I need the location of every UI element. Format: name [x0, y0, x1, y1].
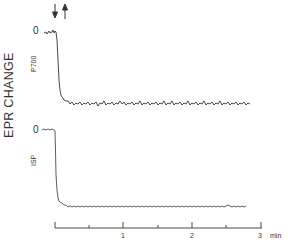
p700-trace: [44, 30, 250, 106]
x-unit-label: min: [270, 232, 281, 239]
y-axis-label: EPR CHANGE: [2, 52, 16, 138]
light-off-arrow-icon: [63, 4, 68, 19]
x-tick-2: 2: [190, 232, 194, 239]
isp-zero-label: 0: [33, 124, 39, 135]
light-on-arrow-icon: [53, 4, 58, 18]
isp-label: ISP: [30, 155, 37, 166]
x-tick-1: 1: [121, 232, 125, 239]
p700-zero-label: 0: [33, 25, 39, 36]
x-axis: [55, 222, 262, 228]
x-tick-3: 3: [258, 232, 262, 239]
isp-trace: [42, 129, 246, 207]
p700-label: P700: [30, 56, 37, 72]
epr-chart: [0, 0, 289, 250]
